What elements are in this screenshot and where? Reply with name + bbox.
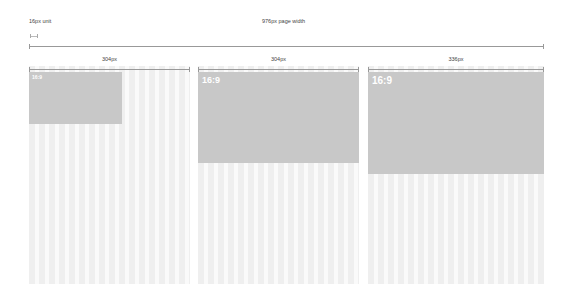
page-width-label: 976px page width	[262, 18, 305, 24]
column-2-ruler	[198, 69, 359, 70]
column-3-ruler	[368, 69, 544, 70]
column-2-width-label: 304px	[198, 56, 359, 62]
column-1-width-label: 304px	[29, 56, 190, 62]
column-3-width-label: 336px	[368, 56, 544, 62]
page-width-ruler	[29, 46, 544, 47]
unit-marker-icon	[30, 34, 38, 38]
aspect-box-3: 16:9	[368, 72, 544, 174]
column-1-ruler	[29, 69, 190, 70]
unit-label: 16px unit	[29, 18, 51, 24]
aspect-ratio-label: 16:9	[32, 74, 42, 80]
aspect-ratio-label: 16:9	[372, 75, 392, 86]
aspect-box-2: 16:9	[198, 72, 359, 163]
aspect-ratio-label: 16:9	[202, 75, 220, 85]
aspect-box-1: 16:9	[29, 72, 122, 124]
